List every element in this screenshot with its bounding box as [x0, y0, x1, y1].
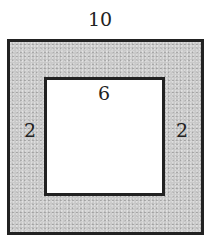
right-border-width-label: 2: [176, 121, 188, 140]
left-border-width-label: 2: [24, 121, 36, 140]
outer-side-length-label: 10: [88, 10, 112, 29]
inner-side-length-label: 6: [98, 84, 110, 103]
